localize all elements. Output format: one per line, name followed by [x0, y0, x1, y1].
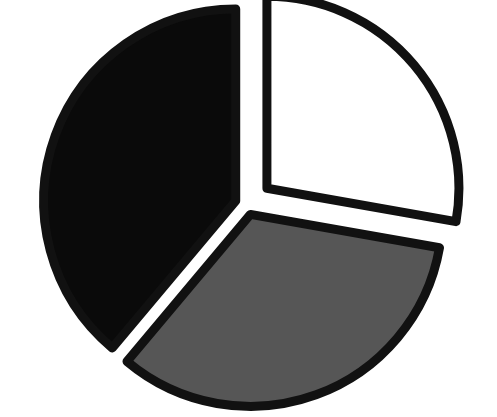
pie-chart-canvas — [0, 0, 497, 417]
pie-chart-figure — [0, 0, 497, 417]
